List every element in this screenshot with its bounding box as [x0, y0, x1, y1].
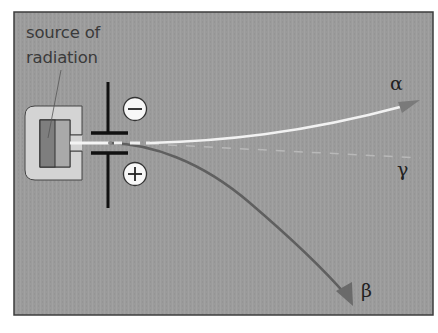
radioactive-source-block [40, 120, 55, 167]
beta-label: β [361, 279, 372, 301]
source-label-line2: radiation [26, 48, 98, 68]
gamma-label: γ [397, 158, 408, 180]
positive-symbol-icon [124, 163, 147, 186]
source-label-line1: source of [26, 23, 100, 43]
negative-symbol-icon [124, 98, 147, 121]
radiation-deflection-diagram: source of radiation α γ β [0, 0, 438, 333]
alpha-label: α [390, 72, 403, 94]
